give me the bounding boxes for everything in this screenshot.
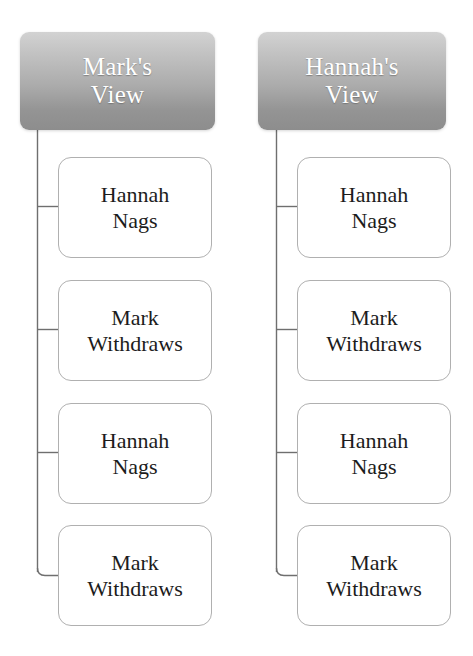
event-node-line-2: Nags <box>112 208 157 233</box>
event-node-line-1: Mark <box>111 550 159 575</box>
event-node[interactable]: Mark Withdraws <box>58 280 212 381</box>
event-node-line-2: Withdraws <box>87 576 183 601</box>
event-node-label: Mark Withdraws <box>319 305 429 357</box>
event-node[interactable]: Mark Withdraws <box>297 280 451 381</box>
event-node-line-2: Withdraws <box>326 331 422 356</box>
event-node-line-1: Hannah <box>340 428 408 453</box>
event-node-line-2: Nags <box>112 454 157 479</box>
view-header-line-2: View <box>91 81 144 108</box>
view-header-marks-view[interactable]: Mark's View <box>20 32 215 130</box>
event-node[interactable]: Hannah Nags <box>58 157 212 258</box>
event-node[interactable]: Mark Withdraws <box>297 525 451 626</box>
event-node-label: Hannah Nags <box>333 182 415 234</box>
event-node-line-2: Withdraws <box>87 331 183 356</box>
event-node-label: Mark Withdraws <box>80 305 190 357</box>
event-node[interactable]: Hannah Nags <box>297 157 451 258</box>
event-node[interactable]: Hannah Nags <box>58 403 212 504</box>
event-node-label: Mark Withdraws <box>80 550 190 602</box>
event-node-label: Hannah Nags <box>94 428 176 480</box>
column-marks-view: Mark's View Hannah Nags Mark Withdraws H… <box>0 0 236 656</box>
event-node-label: Hannah Nags <box>333 428 415 480</box>
event-node[interactable]: Hannah Nags <box>297 403 451 504</box>
event-node-label: Hannah Nags <box>94 182 176 234</box>
view-header-label: Mark's View <box>77 53 159 109</box>
view-header-label: Hannah's View <box>299 53 405 109</box>
event-node-line-2: Nags <box>351 208 396 233</box>
event-node-line-2: Withdraws <box>326 576 422 601</box>
event-node-line-1: Hannah <box>101 428 169 453</box>
view-header-line-2: View <box>325 81 378 108</box>
event-node-label: Mark Withdraws <box>319 550 429 602</box>
event-node-line-2: Nags <box>351 454 396 479</box>
event-node-line-1: Mark <box>111 305 159 330</box>
column-hannahs-view: Hannah's View Hannah Nags Mark Withdraws… <box>237 0 473 656</box>
event-node-line-1: Mark <box>350 305 398 330</box>
diagram-root: Mark's View Hannah Nags Mark Withdraws H… <box>0 0 473 656</box>
event-node-line-1: Hannah <box>340 182 408 207</box>
view-header-hannahs-view[interactable]: Hannah's View <box>258 32 446 130</box>
view-header-line-1: Hannah's <box>305 53 399 80</box>
view-header-line-1: Mark's <box>83 53 153 80</box>
event-node[interactable]: Mark Withdraws <box>58 525 212 626</box>
event-node-line-1: Hannah <box>101 182 169 207</box>
event-node-line-1: Mark <box>350 550 398 575</box>
